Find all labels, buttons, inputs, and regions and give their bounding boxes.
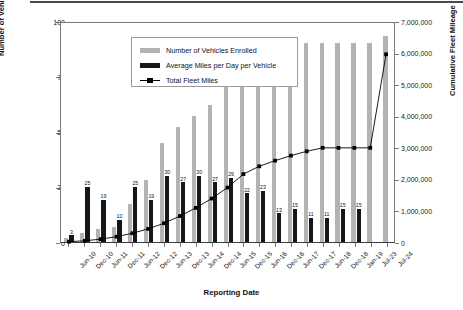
y2-tick-label: 5,000,000	[401, 82, 432, 89]
x-tick-mark	[387, 243, 388, 247]
x-tick-mark	[355, 243, 356, 247]
line-data-point-marker	[210, 197, 214, 201]
x-tick-mark	[132, 243, 133, 247]
chart-figure: Number of Vehicles and Average Miles Per…	[0, 0, 463, 310]
y-axis-right-title: Cumulative Fleet Mileage	[449, 0, 457, 96]
legend-item-vehicles-enrolled: Number of Vehicles Enrolled	[140, 44, 297, 57]
y2-tick-mark	[395, 243, 399, 244]
y2-tick-label: 2,000,000	[401, 176, 432, 183]
x-tick-label: Jun-10	[78, 250, 97, 269]
y-tick-mark	[56, 243, 60, 244]
y2-tick-label: 3,000,000	[401, 145, 432, 152]
line-data-point-marker	[130, 231, 134, 235]
x-tick-label: Dec-14	[222, 250, 242, 270]
line-data-point-marker	[368, 146, 372, 150]
x-tick-label: Dec-12	[158, 250, 178, 270]
line-data-point-marker	[257, 164, 261, 168]
x-tick-mark	[259, 243, 260, 247]
line-data-point-marker	[83, 239, 87, 243]
line-data-point-marker	[146, 227, 150, 231]
line-data-point-marker	[115, 235, 119, 239]
legend-item-avg-miles-per-day: Average Miles per Day per Vehicle	[140, 59, 297, 72]
x-tick-mark	[307, 243, 308, 247]
line-data-point-marker	[352, 146, 356, 150]
x-tick-label: Dec-11	[126, 250, 146, 270]
x-tick-mark	[339, 243, 340, 247]
x-tick-mark	[100, 243, 101, 247]
x-tick-mark	[371, 243, 372, 247]
y2-tick-label: 0	[401, 240, 405, 247]
black-bar-swatch-icon	[140, 63, 160, 68]
x-tick-label: Dec-16	[286, 250, 306, 270]
x-tick-mark	[196, 243, 197, 247]
y2-tick-label: 4,000,000	[401, 113, 432, 120]
x-tick-mark	[291, 243, 292, 247]
x-tick-mark	[275, 243, 276, 247]
line-data-point-marker	[273, 159, 277, 163]
y2-tick-label: 1,000,000	[401, 208, 432, 215]
x-tick-mark	[323, 243, 324, 247]
line-data-point-marker	[194, 206, 198, 210]
line-data-point-marker	[289, 154, 293, 158]
line-data-point-marker	[321, 146, 325, 150]
legend-item-total-fleet-miles: Total Fleet Miles	[140, 74, 297, 87]
x-tick-label: Dec-18	[349, 250, 369, 270]
x-axis-title: Reporting Date	[0, 288, 463, 297]
legend-label: Average Miles per Day per Vehicle	[166, 62, 276, 70]
x-tick-label: Dec-10	[94, 250, 114, 270]
line-data-point-marker	[337, 146, 341, 150]
y-axis-left-title: Number of Vehicles and Average Miles Per…	[0, 0, 6, 56]
page-top-rule	[30, 1, 463, 3]
x-tick-mark	[84, 243, 85, 247]
line-data-point-marker	[162, 221, 166, 225]
line-data-point-marker	[67, 240, 71, 244]
x-tick-mark	[180, 243, 181, 247]
x-tick-mark	[68, 243, 69, 247]
x-tick-label: Dec-17	[317, 250, 337, 270]
x-tick-mark	[228, 243, 229, 247]
y2-tick-label: 6,000,000	[401, 50, 432, 57]
chart-legend: Number of Vehicles Enrolled Average Mile…	[131, 37, 298, 87]
line-data-point-marker	[178, 214, 182, 218]
x-tick-mark	[243, 243, 244, 247]
x-tick-label: Jul-23	[380, 250, 398, 268]
x-tick-mark	[148, 243, 149, 247]
line-marker-swatch-icon	[140, 77, 160, 84]
x-tick-mark	[212, 243, 213, 247]
x-tick-mark	[164, 243, 165, 247]
x-tick-label: Dec-13	[190, 250, 210, 270]
line-data-point-marker	[384, 52, 388, 56]
gray-bar-swatch-icon	[140, 48, 160, 53]
line-data-point-marker	[241, 172, 245, 176]
x-tick-label: Jul-24	[396, 250, 414, 268]
legend-label: Total Fleet Miles	[166, 77, 218, 85]
line-data-point-marker	[99, 237, 103, 241]
line-data-point-marker	[305, 149, 309, 153]
y2-tick-label: 7,000,000	[401, 19, 432, 26]
x-tick-mark	[116, 243, 117, 247]
line-data-point-marker	[226, 186, 230, 190]
legend-label: Number of Vehicles Enrolled	[166, 47, 257, 55]
